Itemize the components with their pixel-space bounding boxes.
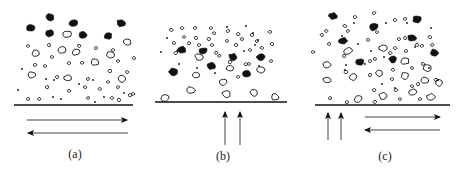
small-particle [26,45,30,48]
large-particle [250,90,257,97]
small-particle [268,31,272,34]
large-particle [421,77,429,83]
dot-particle [381,83,383,85]
small-particle [367,39,370,42]
small-particle [45,86,49,89]
small-particle [80,62,84,65]
particle-flow-diagram: (a)(b)(c) [0,0,457,177]
dark-particle [356,59,364,65]
dark-particle [46,30,54,37]
small-particle [210,44,214,47]
dot-particle [92,79,94,81]
small-particle [98,88,102,91]
small-particle [225,40,228,43]
small-particle [375,31,378,34]
dot-particle [383,56,385,58]
large-particle [32,50,39,56]
small-particle [33,64,37,67]
dark-particle [207,62,216,69]
small-particle [269,60,273,63]
small-particle [37,98,41,101]
small-particle [328,97,331,100]
large-particle [161,95,169,102]
dark-particle [69,20,78,27]
large-particle [401,58,409,64]
small-particle [260,47,264,50]
small-particle [170,28,174,31]
small-particle [212,32,216,35]
dot-particle [17,89,19,91]
dot-particle [123,92,125,94]
small-particle [94,47,97,50]
small-particle [420,45,424,48]
small-particle [327,43,330,46]
dot-particle [385,22,387,24]
small-particle [389,52,393,55]
small-particle [368,60,371,63]
small-particle [403,37,406,40]
small-particle [369,74,372,77]
panel-label-b: (b) [216,149,230,163]
large-particle [91,59,98,65]
small-particle [172,42,175,45]
large-particle [63,31,72,37]
dot-particle [53,79,55,81]
dot-particle [214,72,216,74]
small-particle [404,50,408,53]
small-particle [403,18,407,21]
dark-particle [242,70,251,77]
dark-particle [46,14,54,21]
dot-particle [243,50,245,52]
small-particle [209,27,213,30]
small-particle [394,89,398,92]
small-particle [390,78,394,81]
large-particle [64,75,72,81]
small-particle [43,65,47,68]
large-particle [187,87,196,94]
dot-particle [21,68,23,70]
large-particle [349,73,357,80]
dot-particle [428,67,430,69]
small-particle [180,27,184,30]
small-particle [193,27,197,30]
dot-particle [166,37,168,39]
large-particle [379,45,387,51]
panel-c: (c) [311,12,450,164]
small-particle [128,94,132,97]
small-particle [416,83,420,86]
small-particle [86,97,89,100]
small-particle [110,97,114,100]
small-particle [217,54,221,57]
small-particle [391,69,395,72]
small-particle [393,19,397,22]
dot-particle [226,26,228,28]
dot-particle [357,43,359,45]
dark-particle [338,37,348,44]
small-particle [345,101,349,104]
large-particle [58,46,66,53]
large-particle [379,93,387,100]
large-particle [222,91,230,98]
large-particle [436,80,443,87]
small-particle [234,44,238,47]
dark-particle [117,20,126,27]
small-particle [50,56,54,59]
dot-particle [364,63,366,65]
dot-particle [370,50,372,52]
dot-particle [345,64,347,66]
small-particle [324,30,328,33]
small-particle [188,42,191,45]
small-particle [78,44,81,47]
small-particle [248,49,252,52]
dot-particle [196,67,198,69]
small-particle [86,77,89,80]
small-particle [215,52,219,55]
dark-particle [229,53,237,61]
small-particle [343,24,347,27]
large-particle [118,75,126,82]
small-particle [430,44,434,47]
small-particle [132,57,136,60]
large-particle [219,79,227,85]
dot-particle [160,51,162,53]
small-particle [397,38,401,41]
